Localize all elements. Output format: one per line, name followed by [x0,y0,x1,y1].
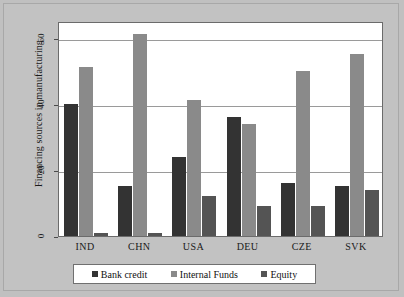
y-tick-label-0: 0 [36,223,46,249]
bar-cze-bank-credit [281,183,295,236]
x-tick-label-chn: CHN [112,241,166,252]
legend-label: Bank credit [101,269,147,280]
legend-label: Internal Funds [180,269,238,280]
y-tick-label-60: 60 [36,25,46,51]
chart-legend: Bank creditInternal FundsEquity [73,264,316,284]
x-tick-label-usa: USA [166,241,220,252]
bar-chn-bank-credit [118,186,132,236]
legend-label: Equity [270,269,297,280]
bar-usa-internal-funds [187,100,201,236]
x-tick-label-svk: SVK [329,241,383,252]
bar-svk-bank-credit [335,186,349,236]
legend-swatch-icon [92,271,98,277]
plot-area [58,22,383,237]
bar-deu-equity [257,206,271,236]
bar-group-deu [222,23,276,236]
bar-chn-equity [148,233,162,236]
bars-layer [59,23,382,236]
legend-item-equity: Equity [261,269,297,280]
bar-ind-equity [94,233,108,236]
x-tick-label-deu: DEU [221,241,275,252]
bar-chn-internal-funds [133,34,147,236]
bar-usa-equity [202,196,216,236]
bar-ind-internal-funds [79,67,93,236]
legend-swatch-icon [261,271,267,277]
bar-group-ind [59,23,113,236]
bar-ind-bank-credit [64,104,78,236]
bar-deu-bank-credit [227,117,241,236]
legend-swatch-icon [171,271,177,277]
chart-canvas: Financing sources in manufacturing 02040… [0,0,404,297]
x-tick-label-ind: IND [58,241,112,252]
y-tick-label-20: 20 [36,157,46,183]
bar-svk-internal-funds [350,54,364,236]
bar-group-svk [330,23,384,236]
y-tick-mark-0 [54,237,58,238]
y-tick-label-40: 40 [36,91,46,117]
bar-cze-equity [311,206,325,236]
legend-item-bank-credit: Bank credit [92,269,147,280]
bar-group-chn [113,23,167,236]
bar-deu-internal-funds [242,124,256,236]
legend-item-internal-funds: Internal Funds [171,269,238,280]
bar-group-cze [276,23,330,236]
bar-svk-equity [365,190,379,236]
bar-cze-internal-funds [296,71,310,236]
bar-usa-bank-credit [172,157,186,236]
bar-group-usa [167,23,221,236]
x-tick-label-cze: CZE [275,241,329,252]
